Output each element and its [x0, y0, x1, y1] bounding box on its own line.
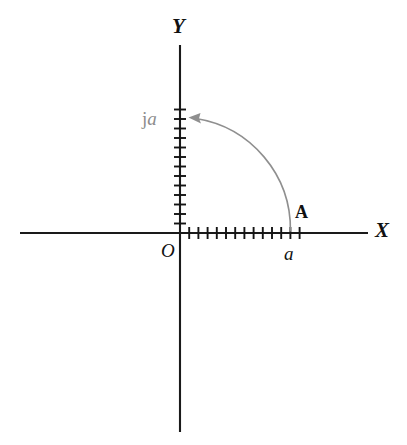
point-a-upper-label: A: [295, 203, 308, 221]
ja-label-a: a: [147, 108, 157, 129]
x-axis-label: X: [375, 220, 389, 241]
y-axis-label: Y: [172, 16, 185, 37]
origin-label: O: [161, 241, 175, 260]
rotation-arc: [196, 119, 290, 232]
rotation-diagram-figure: Y X O a A ja: [0, 0, 407, 445]
ja-label: ja: [142, 109, 157, 128]
figure-canvas: [0, 0, 407, 445]
point-a-lower-label: a: [284, 244, 294, 263]
